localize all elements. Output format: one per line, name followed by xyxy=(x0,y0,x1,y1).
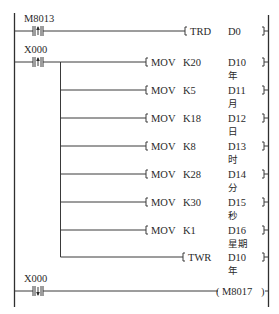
instruction-close-bracket xyxy=(262,198,269,206)
instruction-open-bracket xyxy=(146,114,148,122)
operand-comment: 日 xyxy=(228,126,238,137)
instruction-opcode: MOV xyxy=(151,169,176,180)
rising-edge-arrow-icon xyxy=(36,26,40,30)
contact-label: M8013 xyxy=(24,13,54,24)
instruction-close-bracket xyxy=(262,86,269,94)
instruction-destination: D16 xyxy=(228,225,246,236)
instruction-source: K30 xyxy=(183,197,201,208)
instruction-source: K18 xyxy=(183,113,201,124)
rung-1: M8013TRDD0 xyxy=(15,13,269,37)
instruction-source: K28 xyxy=(183,169,201,180)
instruction-operand: D0 xyxy=(228,26,241,37)
ladder-diagram: M8013TRDD0X000MOVK20D10年MOVK5D11月MOVK18D… xyxy=(0,0,279,314)
instruction-opcode: MOV xyxy=(151,197,176,208)
instruction-destination: D14 xyxy=(228,169,247,180)
operand-comment: 月 xyxy=(228,98,238,109)
instruction-opcode: MOV xyxy=(151,85,176,96)
instruction-opcode: MOV xyxy=(151,57,176,68)
instruction-close-bracket xyxy=(262,253,269,261)
instruction-destination: D10 xyxy=(228,252,246,263)
instruction-close-bracket xyxy=(262,114,269,122)
instruction-opcode: MOV xyxy=(151,141,176,152)
instruction-open-bracket xyxy=(146,198,148,206)
rung-2: X000MOVK20D10年MOVK5D11月MOVK18D12日MOVK8D1… xyxy=(15,44,269,276)
operand-comment: 时 xyxy=(228,154,238,165)
instruction-twr: TWRD10年 xyxy=(61,252,269,276)
instruction-mov: MOVK5D11月 xyxy=(61,85,269,109)
rising-edge-contact[interactable] xyxy=(33,26,43,36)
instruction-close-bracket xyxy=(262,58,269,66)
contact-label: X000 xyxy=(24,273,47,284)
instruction-destination: D12 xyxy=(228,113,246,124)
instruction-open-bracket xyxy=(146,58,148,66)
instruction-opcode: TRD xyxy=(190,26,211,37)
instruction-close-bracket xyxy=(262,27,269,35)
instruction-destination: D15 xyxy=(228,197,246,208)
operand-comment: 秒 xyxy=(228,210,238,221)
coil-open-paren: ( xyxy=(216,286,220,298)
instruction-source: K20 xyxy=(183,57,201,68)
coil-close-paren: ) xyxy=(261,286,265,298)
instruction-open-bracket xyxy=(146,170,148,178)
instruction-close-bracket xyxy=(262,142,269,150)
output-coil[interactable]: (M8017) xyxy=(216,286,269,298)
rising-edge-arrow-icon xyxy=(36,57,40,61)
instruction-source: K1 xyxy=(183,225,196,236)
instruction-open-bracket xyxy=(146,86,148,94)
instruction-mov: MOVK18D12日 xyxy=(61,113,269,137)
instruction-open-bracket xyxy=(185,27,187,35)
contact-label: X000 xyxy=(24,44,47,55)
falling-edge-arrow-icon xyxy=(36,292,40,296)
instruction-open-bracket xyxy=(146,142,148,150)
operand-comment: 分 xyxy=(228,182,238,193)
instruction-opcode: MOV xyxy=(151,225,176,236)
operand-comment: 年 xyxy=(228,70,238,81)
instruction-mov: MOVK30D15秒 xyxy=(61,197,269,221)
coil-label: M8017 xyxy=(222,286,252,297)
operand-comment: 年 xyxy=(228,265,238,276)
instruction-mov: MOVK20D10年 xyxy=(61,57,269,81)
instruction-mov: MOVK28D14分 xyxy=(61,169,269,193)
rung-3: X000(M8017) xyxy=(15,273,269,298)
instruction-open-bracket xyxy=(183,253,185,261)
operand-comment: 星期 xyxy=(228,238,248,249)
instruction-close-bracket xyxy=(262,170,269,178)
instruction-close-bracket xyxy=(262,226,269,234)
instruction-open-bracket xyxy=(146,226,148,234)
instruction-mov: MOVK1D16星期 xyxy=(61,225,269,249)
instruction-destination: D13 xyxy=(228,141,246,152)
instruction-source: K5 xyxy=(183,85,196,96)
instruction-source: K8 xyxy=(183,141,196,152)
instruction-destination: D11 xyxy=(228,85,246,96)
rising-edge-contact[interactable] xyxy=(33,57,43,67)
instruction-opcode: MOV xyxy=(151,113,176,124)
instruction-destination: D10 xyxy=(228,57,246,68)
falling-edge-contact[interactable] xyxy=(33,286,43,296)
instruction-opcode: TWR xyxy=(188,252,211,263)
instruction-mov: MOVK8D13时 xyxy=(61,141,269,165)
